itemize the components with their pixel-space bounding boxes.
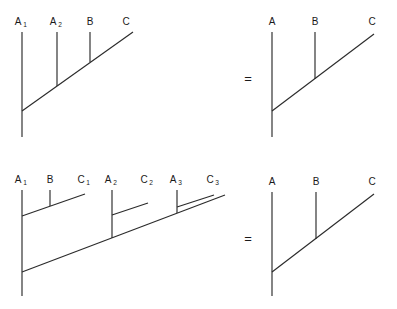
equals-sign-top: = [244,71,252,86]
svg-text:A: A [269,16,276,27]
svg-text:B: B [87,16,94,27]
label-a: A [269,16,276,27]
main-spine-diagonal [22,195,225,272]
svg-text:B: B [47,174,54,185]
label-a2: A 2 [105,174,118,186]
svg-text:C: C [368,16,375,27]
svg-text:1: 1 [23,21,27,28]
spine-diagonal [22,32,133,111]
equals-sign-bottom: = [244,231,252,246]
svg-text:1: 1 [86,179,90,186]
label-c: C [368,176,375,187]
bottom-left-tree: A 1 B C 1 A 2 C 2 A 3 C [15,174,225,296]
label-b: B [47,174,54,185]
top-left-tree: A 1 A 2 B C [15,16,133,137]
label-b: B [313,176,320,187]
spine-diagonal [272,194,374,272]
bottom-right-tree: A B C [269,176,376,296]
svg-text:A: A [170,174,177,185]
label-c: C [368,16,375,27]
svg-text:2: 2 [149,179,153,186]
svg-text:B: B [312,16,319,27]
svg-text:2: 2 [58,21,62,28]
label-c3: C 3 [206,174,219,186]
label-c1: C 1 [77,174,90,186]
svg-text:C: C [206,174,213,185]
label-a3: A 3 [170,174,183,186]
svg-text:A: A [50,16,57,27]
top-right-tree: A B C [269,16,376,137]
sub-spine-2 [112,203,148,215]
label-a1: A 1 [15,174,28,186]
diagram-canvas: A 1 A 2 B C = A B [0,0,397,309]
svg-text:C: C [368,176,375,187]
label-b: B [87,16,94,27]
spine-diagonal [272,34,374,111]
figure-root: A 1 A 2 B C = A B [0,0,397,309]
label-b: B [312,16,319,27]
label-c2: C 2 [140,174,153,186]
label-c: C [122,16,129,27]
svg-text:A: A [105,174,112,185]
svg-text:A: A [269,176,276,187]
svg-text:C: C [77,174,84,185]
label-a1: A 1 [15,16,28,28]
svg-text:2: 2 [113,179,117,186]
svg-text:A: A [15,174,22,185]
svg-text:C: C [140,174,147,185]
svg-text:3: 3 [178,179,182,186]
svg-text:3: 3 [215,179,219,186]
svg-text:B: B [313,176,320,187]
svg-text:A: A [15,16,22,27]
sub-spine-1 [22,194,85,216]
svg-text:1: 1 [23,179,27,186]
svg-text:C: C [122,16,129,27]
label-a2: A 2 [50,16,63,28]
label-a: A [269,176,276,187]
